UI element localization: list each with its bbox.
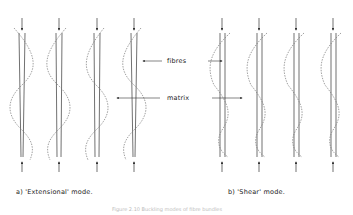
- matrix-label: matrix: [167, 94, 189, 102]
- fibre-pair: [86, 18, 108, 172]
- fibre-pair: [210, 18, 230, 172]
- panel-shear: [210, 18, 341, 172]
- fibre-buckling-diagram: [0, 0, 353, 215]
- subcaption-extensional: a) 'Extensional' mode.: [16, 188, 93, 196]
- fibre-pair: [284, 18, 304, 172]
- fibre-pair: [10, 18, 33, 172]
- fibre-pair: [47, 18, 70, 172]
- subcaption-shear: b) 'Shear' mode.: [228, 188, 285, 196]
- fibre-pair: [321, 18, 341, 172]
- fibre-pair: [123, 18, 146, 172]
- fibre-pair: [247, 18, 267, 172]
- panel-extensional: [10, 18, 146, 172]
- fibres-label: fibres: [167, 57, 186, 65]
- figure-caption: Figure 2.10 Buckling modes of fibre bund…: [112, 206, 222, 212]
